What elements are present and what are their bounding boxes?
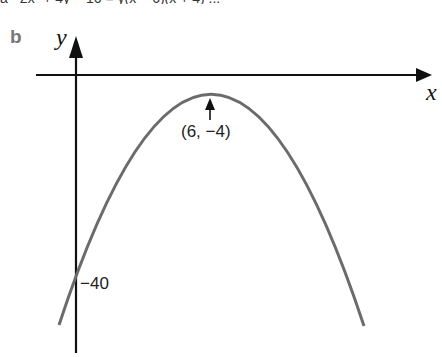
up-arrow-icon [205,98,215,110]
vertex-arrow [205,98,215,120]
y-intercept-label: −40 [80,274,109,293]
y-axis [69,36,83,353]
x-axis [36,68,432,82]
y-axis-label: y [54,24,67,50]
x-axis-label: x [425,79,437,105]
parabola-graph: y x (6, −4) −40 [0,0,442,357]
y-axis-arrow-icon [69,36,83,58]
vertex-label: (6, −4) [181,122,231,141]
